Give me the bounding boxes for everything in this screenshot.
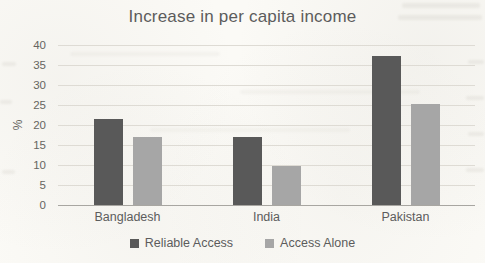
- legend-item-reliable-access: Reliable Access: [130, 236, 233, 250]
- x-axis-labels: BangladeshIndiaPakistan: [58, 210, 475, 224]
- x-label-pakistan: Pakistan: [336, 210, 475, 224]
- y-tick-label-40: 40: [33, 39, 46, 51]
- y-axis-title: %: [11, 120, 25, 131]
- bar-group-pakistan: [336, 45, 475, 205]
- plot-area: [58, 45, 475, 206]
- bar-india-access-alone: [272, 166, 301, 205]
- bar-groups: [58, 45, 475, 205]
- x-label-india: India: [197, 210, 336, 224]
- y-tick-label-35: 35: [33, 59, 46, 71]
- bar-bangladesh-reliable-access: [94, 119, 123, 205]
- y-axis: 0510152025303540: [0, 45, 52, 205]
- bar-pakistan-access-alone: [411, 104, 440, 205]
- x-label-bangladesh: Bangladesh: [58, 210, 197, 224]
- legend: Reliable AccessAccess Alone: [0, 236, 485, 250]
- y-tick-label-25: 25: [33, 99, 46, 111]
- legend-swatch-icon: [265, 239, 274, 248]
- legend-label: Reliable Access: [145, 236, 233, 250]
- y-tick-label-20: 20: [33, 119, 46, 131]
- y-tick-label-0: 0: [40, 199, 46, 211]
- legend-swatch-icon: [130, 239, 139, 248]
- bar-bangladesh-access-alone: [133, 137, 162, 205]
- y-tick-label-15: 15: [33, 139, 46, 151]
- scanned-chart-page: Increase in per capita income 0510152025…: [0, 0, 485, 263]
- y-tick-label-5: 5: [40, 179, 46, 191]
- y-tick-label-10: 10: [33, 159, 46, 171]
- bar-group-bangladesh: [58, 45, 197, 205]
- bar-pakistan-reliable-access: [372, 56, 401, 205]
- y-tick-label-30: 30: [33, 79, 46, 91]
- bar-india-reliable-access: [233, 137, 262, 205]
- chart-title: Increase in per capita income: [0, 7, 485, 27]
- legend-item-access-alone: Access Alone: [265, 236, 355, 250]
- bar-group-india: [197, 45, 336, 205]
- legend-label: Access Alone: [280, 236, 355, 250]
